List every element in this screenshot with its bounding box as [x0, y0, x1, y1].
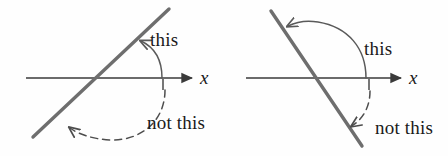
label-not-this-right: not this [375, 118, 433, 137]
label-x-axis-right: x [409, 68, 418, 87]
label-this-left: this [150, 30, 178, 49]
label-this-right: this [364, 39, 392, 58]
incorrect-angle-arc-right [352, 91, 370, 126]
label-x-axis-left: x [200, 68, 209, 87]
correct-angle-arc-right [288, 21, 366, 78]
angle-convention-figure: this not this x this not this x [0, 0, 448, 156]
label-not-this-left: not this [147, 113, 205, 132]
